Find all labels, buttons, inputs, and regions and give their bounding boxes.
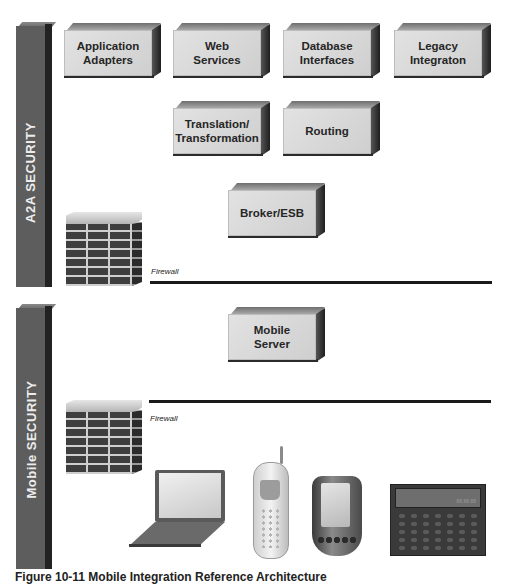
calculator-display: 88.88.88 bbox=[457, 498, 476, 504]
application-adapters-label: Application Adapters bbox=[77, 39, 140, 67]
web-services-label: Web Services bbox=[193, 39, 240, 67]
routing-label: Routing bbox=[305, 124, 348, 138]
firewall-brick-icon bbox=[66, 212, 142, 286]
firewall-label: Firewall bbox=[150, 414, 178, 423]
mobile-server-label: Mobile Server bbox=[254, 323, 290, 351]
mobile-server-box: Mobile Server bbox=[228, 307, 325, 363]
mobile-security-pillar: Mobile SECURITY bbox=[16, 304, 52, 569]
pager-calculator-icon: 88.88.88 bbox=[390, 484, 486, 556]
firewall-brick-icon bbox=[66, 400, 142, 474]
a2a-security-pillar: A2A SECURITY bbox=[16, 22, 52, 287]
translation-transformation-box: Translation/ Transformation bbox=[173, 101, 270, 157]
database-interfaces-box: Database Interfaces bbox=[283, 23, 380, 79]
routing-box: Routing bbox=[283, 101, 380, 157]
legacy-integration-box: Legacy Integraton bbox=[394, 23, 491, 79]
mobile-phone-icon bbox=[250, 446, 290, 558]
firewall-line bbox=[150, 281, 492, 284]
laptop-icon bbox=[129, 470, 231, 550]
pda-icon bbox=[312, 476, 362, 558]
translation-transformation-label: Translation/ Transformation bbox=[175, 117, 259, 145]
pillar-side bbox=[45, 24, 52, 287]
broker-esb-box: Broker/ESB bbox=[228, 183, 325, 239]
firewall-label: Firewall bbox=[151, 267, 179, 276]
database-interfaces-label: Database Interfaces bbox=[300, 39, 354, 67]
web-services-box: Web Services bbox=[173, 23, 270, 79]
firewall-line bbox=[149, 400, 491, 403]
broker-esb-label: Broker/ESB bbox=[240, 206, 304, 220]
a2a-security-label: A2A SECURITY bbox=[16, 122, 45, 222]
legacy-integration-label: Legacy Integraton bbox=[410, 39, 466, 67]
mobile-security-label: Mobile SECURITY bbox=[16, 379, 45, 499]
pillar-side bbox=[45, 306, 52, 569]
figure-caption: Figure 10-11 Mobile Integration Referenc… bbox=[15, 570, 327, 584]
application-adapters-box: Application Adapters bbox=[64, 23, 161, 79]
